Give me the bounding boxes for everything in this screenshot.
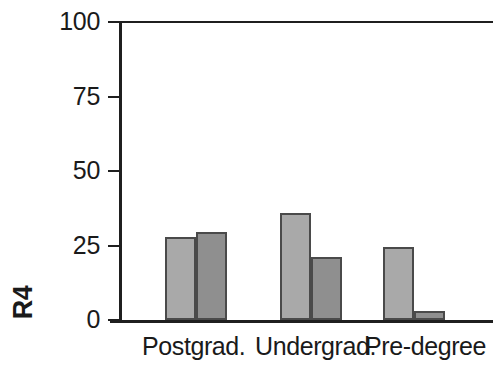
- bars-layer: [0, 0, 493, 368]
- bar: [165, 237, 196, 320]
- bar: [383, 247, 414, 320]
- x-category-label: Undergrad.: [255, 334, 376, 359]
- x-category-label: Pre-degree: [365, 334, 486, 359]
- bar-chart: R4 0255075100 Postgrad.Undergrad.Pre-deg…: [0, 0, 493, 368]
- bar: [280, 213, 311, 320]
- bar: [414, 311, 445, 320]
- bar: [196, 232, 227, 320]
- bar: [311, 257, 342, 320]
- x-category-label: Postgrad.: [142, 334, 245, 359]
